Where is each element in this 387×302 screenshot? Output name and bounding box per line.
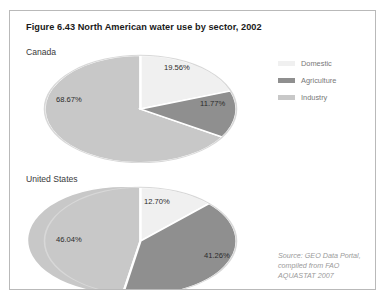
source-line-3: AQUASTAT 2007	[278, 271, 376, 281]
figure-frame: Figure 6.43 North American water use by …	[9, 10, 376, 290]
slice-label-usa-agriculture: 41.26%	[204, 251, 230, 260]
legend-swatch-industry	[278, 95, 295, 100]
legend-label-domestic: Domestic	[301, 59, 332, 68]
slice-label-canada-industry: 68.67%	[56, 95, 82, 104]
slice-label-usa-domestic: 12.70%	[144, 197, 170, 206]
figure-title: Figure 6.43 North American water use by …	[26, 22, 262, 32]
legend-item-domestic: Domestic	[278, 57, 336, 70]
pie-usa-svg	[18, 183, 263, 290]
source-line-2: compiled from FAO	[278, 261, 376, 271]
slice-label-canada-agriculture: 11.77%	[200, 99, 225, 108]
source-line-1: Source: GEO Data Portal,	[278, 251, 376, 261]
legend-swatch-agriculture	[278, 78, 295, 83]
source-note: Source: GEO Data Portal, compiled from F…	[278, 251, 376, 282]
legend-label-agriculture: Agriculture	[301, 76, 336, 85]
legend-label-industry: Industry	[301, 93, 327, 102]
legend-item-agriculture: Agriculture	[278, 74, 336, 87]
legend-item-industry: Industry	[278, 91, 336, 104]
pie-chart-canada: 19.56% 11.77% 68.67%	[18, 51, 263, 163]
legend-swatch-domestic	[278, 61, 295, 66]
slice-label-canada-domestic: 19.56%	[164, 63, 190, 72]
pie-chart-united-states: 12.70% 41.26% 46.04%	[18, 183, 263, 290]
legend: Domestic Agriculture Industry	[278, 57, 336, 108]
slice-label-usa-industry: 46.04%	[56, 235, 82, 244]
pie-canada-svg	[18, 51, 263, 163]
